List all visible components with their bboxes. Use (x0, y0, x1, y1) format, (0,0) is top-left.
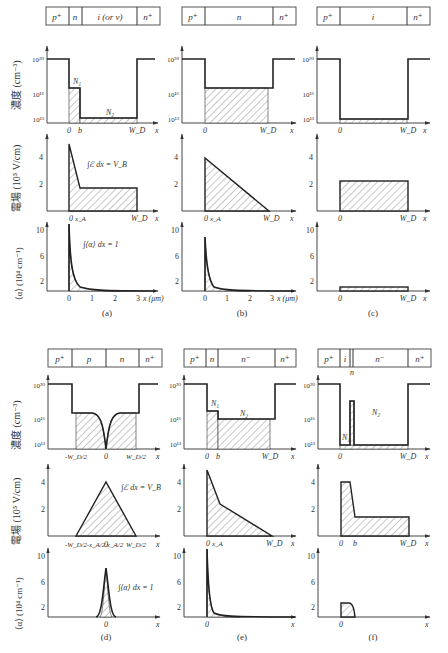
svg-text:x: x (289, 126, 294, 135)
svg-text:0: 0 (67, 294, 71, 303)
svg-text:p⁺: p⁺ (54, 354, 65, 364)
svg-text:2: 2 (39, 180, 43, 189)
panel-d: p⁺ p n n⁺ 10²⁰ 10¹⁶ 10¹³ -W_D/2 0 W_D/2 … (33, 349, 162, 642)
svg-text:2: 2 (177, 603, 181, 612)
svg-text:6: 6 (40, 252, 44, 261)
layer-bar-c: p⁺ i n⁺ (317, 7, 430, 25)
svg-text:x: x (155, 452, 160, 461)
svg-text:x: x (424, 620, 429, 629)
svg-text:W_D/2: W_D/2 (126, 453, 146, 461)
svg-text:0: 0 (104, 452, 108, 461)
svg-text:2: 2 (310, 277, 314, 286)
svg-text:0: 0 (69, 214, 73, 223)
svg-text:n: n (350, 368, 354, 377)
svg-text:6: 6 (310, 252, 314, 261)
svg-text:W_D: W_D (263, 214, 280, 223)
svg-text:p: p (86, 354, 92, 364)
svg-text:∫⟨α⟩ dx = 1: ∫⟨α⟩ dx = 1 (117, 583, 154, 592)
svg-text:N₁: N₁ (72, 77, 81, 86)
svg-text:W_D: W_D (400, 452, 417, 461)
svg-text:3: 3 (136, 294, 140, 303)
svg-text:p⁺: p⁺ (323, 354, 334, 364)
svg-text:∫ℰ dx = V_B: ∫ℰ dx = V_B (86, 160, 127, 169)
svg-text:W_D: W_D (131, 214, 148, 223)
svg-text:2: 2 (311, 603, 315, 612)
svg-text:0: 0 (339, 539, 343, 548)
svg-text:x_A: x_A (211, 540, 224, 548)
svg-text:N₂: N₂ (239, 409, 248, 418)
svg-text:2: 2 (311, 505, 315, 514)
svg-text:b: b (78, 126, 82, 135)
svg-text:10¹³: 10¹³ (168, 116, 179, 124)
svg-text:p⁺: p⁺ (187, 12, 198, 22)
svg-text:0: 0 (338, 452, 342, 461)
svg-text:n: n (120, 354, 125, 364)
layer-bar-e: p⁺ n n⁻ n⁺ (184, 349, 296, 367)
field-plot-d: 4 2 ∫ℰ dx = V_B -W_D/2 -x_A/2 0 x_A/2 W_… (41, 464, 161, 549)
svg-text:b: b (353, 539, 357, 548)
svg-text:x: x (422, 126, 427, 135)
svg-text:3: 3 (270, 294, 274, 303)
svg-text:x_A: x_A (209, 215, 222, 223)
y-label-concentration-top: 濃度 (cm⁻³) (10, 60, 23, 110)
svg-text:N₂: N₂ (371, 408, 380, 417)
svg-text:0: 0 (206, 539, 210, 548)
svg-text:x_A: x_A (74, 215, 87, 223)
caption-d: (d) (101, 632, 112, 642)
svg-text:0: 0 (203, 126, 207, 135)
svg-text:N₁: N₁ (341, 433, 350, 442)
svg-text:n⁺: n⁺ (415, 354, 425, 364)
svg-text:10¹⁶: 10¹⁶ (169, 416, 181, 424)
svg-text:W_D: W_D (400, 539, 417, 548)
svg-text:4: 4 (174, 153, 178, 162)
svg-text:4: 4 (41, 478, 45, 487)
y-label-field-bottom: 電場 (10⁵ V/cm) (10, 478, 23, 545)
svg-text:n: n (73, 12, 78, 22)
svg-text:⟨α⟩ (10⁴ cm⁻¹): ⟨α⟩ (10⁴ cm⁻¹) (14, 247, 24, 300)
field-plot-f: 4 2 0 b W_D x (311, 464, 430, 548)
svg-text:x: x (289, 214, 294, 223)
svg-text:x: x (290, 620, 295, 629)
concentration-plot-d: 10²⁰ 10¹⁶ 10¹³ -W_D/2 0 W_D/2 x (33, 375, 160, 461)
svg-text:N₂: N₂ (105, 108, 114, 117)
svg-text:10¹³: 10¹³ (34, 441, 45, 449)
svg-text:W_D: W_D (400, 126, 417, 135)
svg-text:10¹⁶: 10¹⁶ (167, 91, 179, 99)
svg-text:W_D/2: W_D/2 (126, 541, 146, 549)
svg-text:n⁺: n⁺ (279, 12, 289, 22)
svg-text:10²⁰: 10²⁰ (167, 56, 179, 64)
layer-bar-a: p⁺ n i (or ν) n⁺ (46, 7, 160, 25)
svg-text:0: 0 (67, 126, 71, 135)
svg-text:10¹³: 10¹³ (303, 116, 314, 124)
svg-text:10²⁰: 10²⁰ (169, 382, 181, 390)
svg-text:x: x (422, 294, 427, 303)
svg-text:x_A/2: x_A/2 (106, 541, 124, 549)
svg-text:W_D: W_D (262, 452, 279, 461)
ionization-plot-a: 10 6 2 ∫⟨α⟩ dx = 1 0 1 2 3 x (μm) (36, 222, 164, 303)
svg-text:1: 1 (225, 294, 229, 303)
svg-text:10: 10 (173, 552, 181, 561)
concentration-plot-c: 10²⁰ 10¹⁶ 10¹³ 0 W_D x (302, 46, 430, 135)
svg-text:x (μm): x (μm) (276, 294, 298, 303)
caption-f: (f) (369, 632, 378, 642)
ionization-plot-b: 10 6 2 0 1 2 3 x (μm) (171, 222, 298, 303)
svg-text:x: x (290, 539, 295, 548)
svg-text:0: 0 (203, 294, 207, 303)
ionization-plot-c: 10 6 2 0 W_D x (306, 222, 430, 303)
svg-text:10¹³: 10¹³ (304, 441, 315, 449)
svg-text:-x_A/2: -x_A/2 (87, 541, 106, 549)
svg-text:n⁻: n⁻ (375, 354, 385, 364)
ionization-plot-e: 10 6 2 0 x (173, 548, 296, 629)
svg-text:x: x (155, 540, 160, 549)
svg-text:x: x (290, 452, 295, 461)
svg-text:10²⁰: 10²⁰ (302, 56, 314, 64)
svg-text:10: 10 (37, 552, 45, 561)
svg-text:n: n (210, 354, 215, 364)
svg-text:10¹³: 10¹³ (170, 441, 181, 449)
svg-text:6: 6 (311, 578, 315, 587)
svg-text:0: 0 (204, 214, 208, 223)
svg-text:x: x (154, 214, 159, 223)
svg-text:2: 2 (113, 294, 117, 303)
svg-text:n: n (237, 12, 242, 22)
svg-text:電場 (10⁵ V/cm): 電場 (10⁵ V/cm) (10, 145, 23, 212)
